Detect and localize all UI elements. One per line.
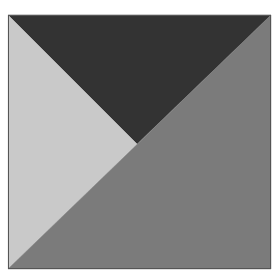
- diagram-canvas: [0, 0, 273, 277]
